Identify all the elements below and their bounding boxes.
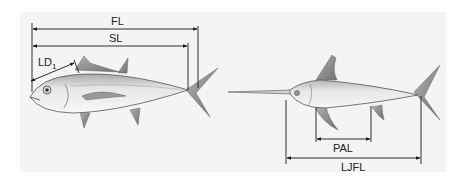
ld1-label-main: LD bbox=[38, 56, 52, 68]
fl-label: FL bbox=[111, 15, 124, 27]
ld1-label-subscript: 1 bbox=[52, 62, 57, 71]
sl-label: SL bbox=[109, 32, 122, 44]
pal-label: PAL bbox=[333, 142, 353, 154]
fish-measurement-diagram: FL SL LD1 PAL LJFL bbox=[0, 0, 467, 181]
ljfl-label: LJFL bbox=[341, 161, 365, 173]
